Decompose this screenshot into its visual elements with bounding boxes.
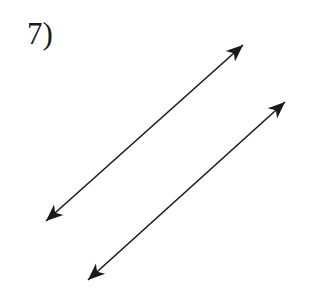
diagram-canvas: 7) (0, 0, 321, 296)
lower-line (88, 102, 285, 280)
parallel-lines-figure (0, 0, 321, 296)
upper-line (46, 45, 243, 221)
